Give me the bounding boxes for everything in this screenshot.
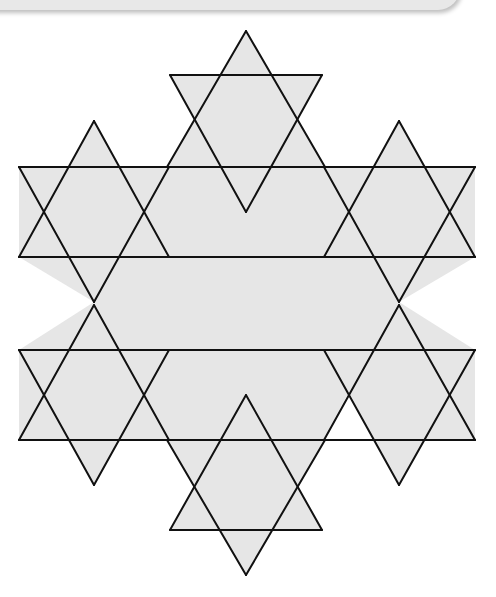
hexagram-lattice-figure — [0, 0, 496, 597]
